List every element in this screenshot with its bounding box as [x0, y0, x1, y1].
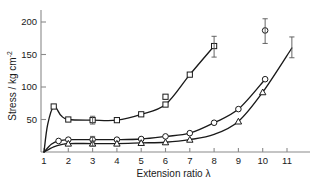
- figure-container: 123456789101150100150200 Extension ratio…: [0, 0, 315, 186]
- x-tick-label-6: 6: [163, 155, 168, 166]
- series-circles: [44, 19, 268, 152]
- series-triangles: [44, 37, 294, 152]
- ticks-group: [41, 22, 287, 152]
- stress-extension-ratio-chart: 123456789101150100150200 Extension ratio…: [0, 0, 315, 186]
- series-squares-marker: [139, 112, 144, 117]
- series-squares-stray-marker: [163, 94, 168, 99]
- y-axis-title: Stress / kg cm-2: [6, 51, 18, 121]
- series-circles-curve: [44, 79, 265, 152]
- x-tick-label-9: 9: [236, 155, 241, 166]
- series-circles-marker: [211, 120, 217, 126]
- series-squares-marker: [187, 72, 192, 77]
- series-circles-marker: [236, 106, 242, 112]
- x-tick-label-11: 11: [282, 155, 292, 166]
- y-tick-label-150: 150: [21, 49, 37, 60]
- series-squares-marker: [114, 118, 119, 123]
- tick-labels-group: 123456789101150100150200: [21, 16, 292, 166]
- x-tick-label-10: 10: [257, 155, 268, 166]
- x-axis-title: Extension ratio λ: [137, 168, 211, 179]
- series-squares-marker: [66, 117, 71, 122]
- series-triangles-errorbar: [289, 37, 294, 58]
- series-circles-marker: [262, 76, 268, 82]
- x-tick-label-5: 5: [139, 155, 144, 166]
- axis-titles-group: Extension ratio λ Stress / kg cm-2: [6, 51, 210, 179]
- y-tick-label-50: 50: [26, 114, 37, 125]
- series-circles-marker: [187, 130, 193, 136]
- x-tick-label-4: 4: [114, 155, 119, 166]
- x-tick-label-1: 1: [41, 155, 46, 166]
- y-tick-label-100: 100: [21, 81, 37, 92]
- x-tick-label-7: 7: [187, 155, 192, 166]
- series-squares-marker: [51, 104, 56, 109]
- y-tick-label-200: 200: [21, 16, 37, 27]
- x-tick-label-3: 3: [90, 155, 95, 166]
- x-tick-label-2: 2: [66, 155, 71, 166]
- series-circles-marker: [56, 138, 62, 144]
- series-squares-marker: [163, 102, 168, 107]
- x-tick-label-8: 8: [211, 155, 216, 166]
- series-group: [44, 19, 294, 152]
